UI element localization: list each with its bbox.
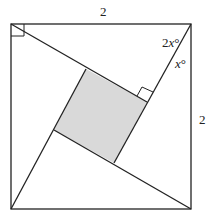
right-side-label: 2: [199, 112, 206, 127]
right-angle-mark-inner: [137, 87, 153, 96]
angle-2x-label: 2x°: [162, 35, 179, 50]
angle-x-label: x°: [174, 56, 186, 71]
top-side-label: 2: [100, 4, 107, 19]
shaded-inner-square: [54, 69, 147, 163]
geometry-diagram: 2 2 2x° x°: [0, 0, 213, 216]
